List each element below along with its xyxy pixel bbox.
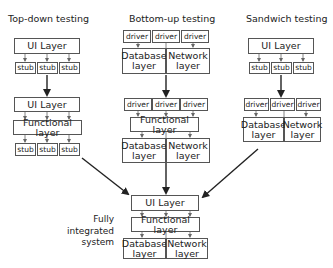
bottom-up-network-layer: Network layer — [166, 48, 210, 74]
sandwich-stub: stub — [293, 62, 314, 74]
sandwich-driver: driver — [296, 98, 321, 111]
sandwich-stub: stub — [271, 62, 292, 74]
bottom-up-driver: driver — [123, 30, 151, 43]
final-network-layer: Network layer — [166, 238, 208, 259]
top-down-stub: stub — [59, 62, 80, 74]
top-down-stub: stub — [15, 62, 36, 74]
final-ui-layer: UI Layer — [131, 195, 199, 211]
final-functional-layer: Functional layer — [131, 217, 200, 232]
final-database-layer: Database layer — [123, 238, 166, 259]
top-down-stub-2: stub — [59, 143, 80, 156]
sandwich-driver: driver — [270, 98, 295, 111]
bottom-up-driver-2: driver — [124, 98, 152, 111]
bottom-up-network-layer-2: Network layer — [166, 138, 210, 163]
sandwich-title: Sandwich testing — [246, 13, 328, 24]
bottom-up-functional-layer: Functional layer — [130, 117, 199, 132]
sandwich-ui-layer: UI Layer — [248, 38, 314, 54]
bottom-up-driver: driver — [181, 30, 209, 43]
top-down-ui-layer: UI Layer — [14, 38, 80, 54]
top-down-stub-2: stub — [37, 143, 58, 156]
sandwich-stub: stub — [249, 62, 270, 74]
sandwich-network-layer: Network layer — [284, 117, 321, 142]
top-down-ui-layer-2: UI Layer — [14, 97, 80, 112]
bottom-up-database-layer: Database layer — [122, 48, 166, 74]
top-down-title: Top-down testing — [8, 13, 89, 24]
top-down-stub-2: stub — [15, 143, 36, 156]
sandwich-database-layer: Database layer — [243, 117, 284, 142]
sandwich-driver: driver — [244, 98, 269, 111]
fully-integrated-caption: Fully integrated system — [62, 214, 114, 249]
bottom-up-driver-2: driver — [152, 98, 180, 111]
bottom-up-database-layer-2: Database layer — [122, 138, 166, 163]
top-down-stub: stub — [37, 62, 58, 74]
top-down-functional-layer: Functional layer — [13, 120, 82, 135]
bottom-up-title: Bottom-up testing — [129, 13, 215, 24]
bottom-up-driver: driver — [152, 30, 180, 43]
bottom-up-driver-2: driver — [180, 98, 208, 111]
